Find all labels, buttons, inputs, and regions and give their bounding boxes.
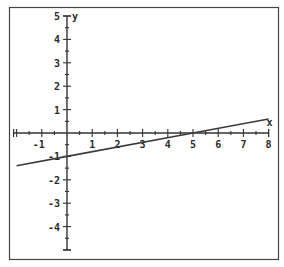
- y-tick-label: -3: [48, 198, 60, 209]
- x-axis-label: x: [267, 117, 273, 128]
- y-tick-label: 1: [54, 105, 60, 116]
- coordinate-plane-chart: -11234567854321-1-2-3-4 x y: [0, 0, 284, 267]
- x-tick-label: 4: [165, 139, 171, 150]
- y-tick-label: -2: [48, 175, 60, 186]
- y-tick-label: 5: [54, 11, 60, 22]
- x-tick-label: 1: [89, 139, 95, 150]
- y-tick-label: -1: [48, 151, 60, 162]
- x-tick-label: 8: [266, 139, 272, 150]
- y-tick-label: 2: [54, 81, 60, 92]
- x-tick-label: 6: [215, 139, 221, 150]
- x-tick-label: -1: [33, 139, 45, 150]
- y-tick-label: 3: [54, 58, 60, 69]
- x-tick-label: 3: [140, 139, 146, 150]
- y-tick-label: -4: [48, 222, 60, 233]
- x-tick-label: 7: [240, 139, 246, 150]
- x-tick-label: 5: [190, 139, 196, 150]
- y-tick-label: 4: [54, 34, 60, 45]
- x-tick-label: 2: [114, 139, 120, 150]
- y-axis-label: y: [72, 11, 78, 22]
